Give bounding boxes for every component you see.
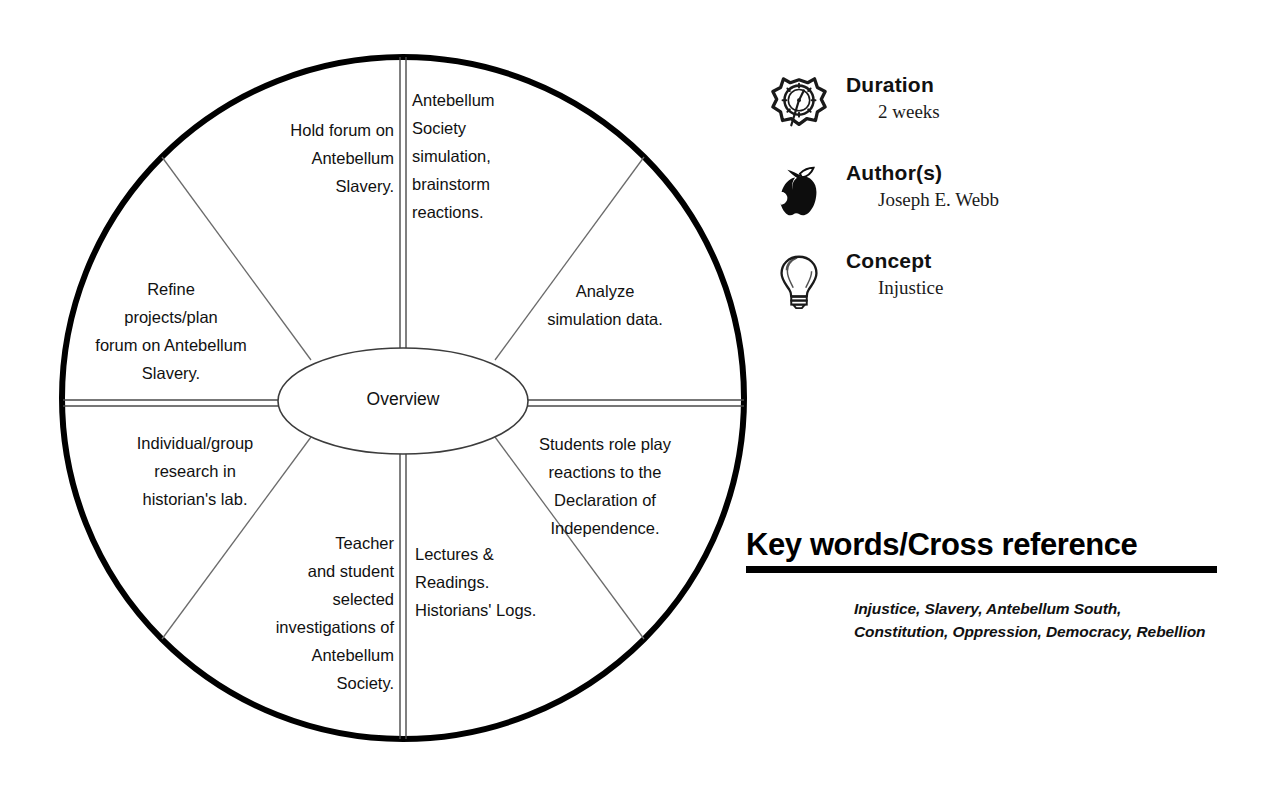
metadata-item-duration: Duration 2 weeks [762,72,1182,160]
wheel-segment-individual-group-research: Individual/group research in historian's… [80,429,310,513]
metadata-title-author: Author(s) [846,160,1182,186]
metadata-item-author: Author(s) Joseph E. Webb [762,160,1182,248]
keywords-heading: Key words/Cross reference [746,527,1246,563]
wheel-segment-antebellum-society-simulation: Antebellum Society simulation, brainstor… [412,86,592,226]
wheel-segment-analyze-simulation-data: Analyze simulation data. [510,277,700,333]
keywords-divider [746,566,1217,573]
metadata-value-duration: 2 weeks [846,99,1182,125]
wheel-center-label: Overview [278,387,528,411]
overview-wheel-diagram: Antebellum Society simulation, brainstor… [0,0,790,794]
apple-icon [768,162,830,224]
metadata-item-concept: Concept Injustice [762,248,1182,336]
metadata-value-concept: Injustice [846,275,1182,301]
lightbulb-icon [768,250,830,312]
wheel-segment-hold-forum-antebellum-slavery: Hold forum on Antebellum Slavery. [190,116,394,200]
wheel-segment-refine-projects-plan-forum: Refine projects/plan forum on Antebellum… [36,275,306,387]
wheel-segment-lectures-readings: Lectures & Readings. Historians' Logs. [415,540,615,624]
clock-icon [768,74,830,136]
metadata-title-duration: Duration [846,72,1182,98]
metadata-value-author: Joseph E. Webb [846,187,1182,213]
keywords-text: Injustice, Slavery, Antebellum South, Co… [854,597,1214,643]
wheel-segment-students-role-play: Students role play reactions to the Decl… [505,430,705,542]
metadata-list: Duration 2 weeks Author(s) Joseph E. Web… [762,72,1182,336]
wheel-segment-teacher-student-investigations: Teacher and student selected investigati… [210,529,394,697]
keywords-section: Key words/Cross reference Injustice, Sla… [746,527,1246,643]
metadata-title-concept: Concept [846,248,1182,274]
